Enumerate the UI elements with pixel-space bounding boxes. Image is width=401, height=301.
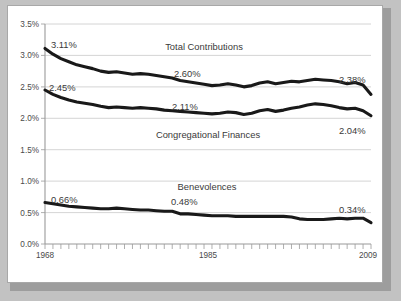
value-label-cong-start: 2.45% (49, 82, 76, 93)
y-axis-label-0.0: 0.0% (20, 240, 39, 249)
y-axis-label-1.0: 1.0% (20, 177, 39, 186)
series-label-total-contributions: Total Contributions (165, 41, 243, 52)
y-axis-label-2.0: 2.0% (20, 114, 39, 123)
value-label-cong-end: 2.04% (339, 125, 366, 136)
value-label-cong-mid: 2.11% (172, 101, 198, 112)
value-label-benev-end: 0.34% (339, 204, 366, 215)
y-axis-label-1.5: 1.5% (20, 146, 39, 155)
series-label-benevolences: Benevolences (178, 181, 237, 192)
value-label-total-start: 3.11% (51, 39, 77, 50)
y-axis-label-3.5: 3.5% (20, 20, 39, 29)
value-label-benev-start: 0.66% (51, 194, 78, 205)
x-axis-label-mid: 1985 (199, 251, 218, 260)
series-annotations: Total Contributions 3.11% 2.60% 2.38% 2.… (49, 39, 366, 215)
x-axis-label-start: 1968 (36, 251, 55, 260)
y-axis-label-0.5: 0.5% (20, 209, 39, 218)
line-chart-svg: 3.5% 3.0% 2.5% 2.0% 1.5% 1.0% 0.5% 0.0% … (8, 6, 384, 284)
y-axis-label-2.5: 2.5% (20, 83, 39, 92)
plot-area: 3.5% 3.0% 2.5% 2.0% 1.5% 1.0% 0.5% 0.0% … (8, 6, 384, 284)
x-axis-label-end: 2009 (359, 251, 378, 260)
series-label-congregational-finances: Congregational Finances (156, 129, 261, 140)
x-axis: 1968 1985 2009 (36, 244, 378, 260)
chart-card: 3.5% 3.0% 2.5% 2.0% 1.5% 1.0% 0.5% 0.0% … (7, 5, 383, 283)
y-axis: 3.5% 3.0% 2.5% 2.0% 1.5% 1.0% 0.5% 0.0% (20, 20, 45, 249)
series-line-congregational-finances (45, 90, 371, 116)
value-label-total-end: 2.38% (339, 74, 366, 85)
y-axis-label-3.0: 3.0% (20, 51, 39, 60)
chart-figure: 3.5% 3.0% 2.5% 2.0% 1.5% 1.0% 0.5% 0.0% … (0, 0, 401, 301)
x-minor-ticks (45, 244, 371, 249)
value-label-benev-mid: 0.48% (171, 196, 198, 207)
value-label-total-mid: 2.60% (174, 68, 201, 79)
